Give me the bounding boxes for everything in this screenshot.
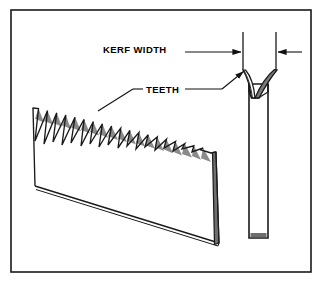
teeth-label: TEETH [146,84,179,95]
diagram-canvas: KERF WIDTH TEETH [0,0,328,286]
blade-edge-body [249,84,268,238]
saw-kerf-diagram: KERF WIDTH TEETH [0,0,328,286]
blade-edge-bottom-shade [251,233,267,237]
kerf-width-label: KERF WIDTH [103,44,167,55]
